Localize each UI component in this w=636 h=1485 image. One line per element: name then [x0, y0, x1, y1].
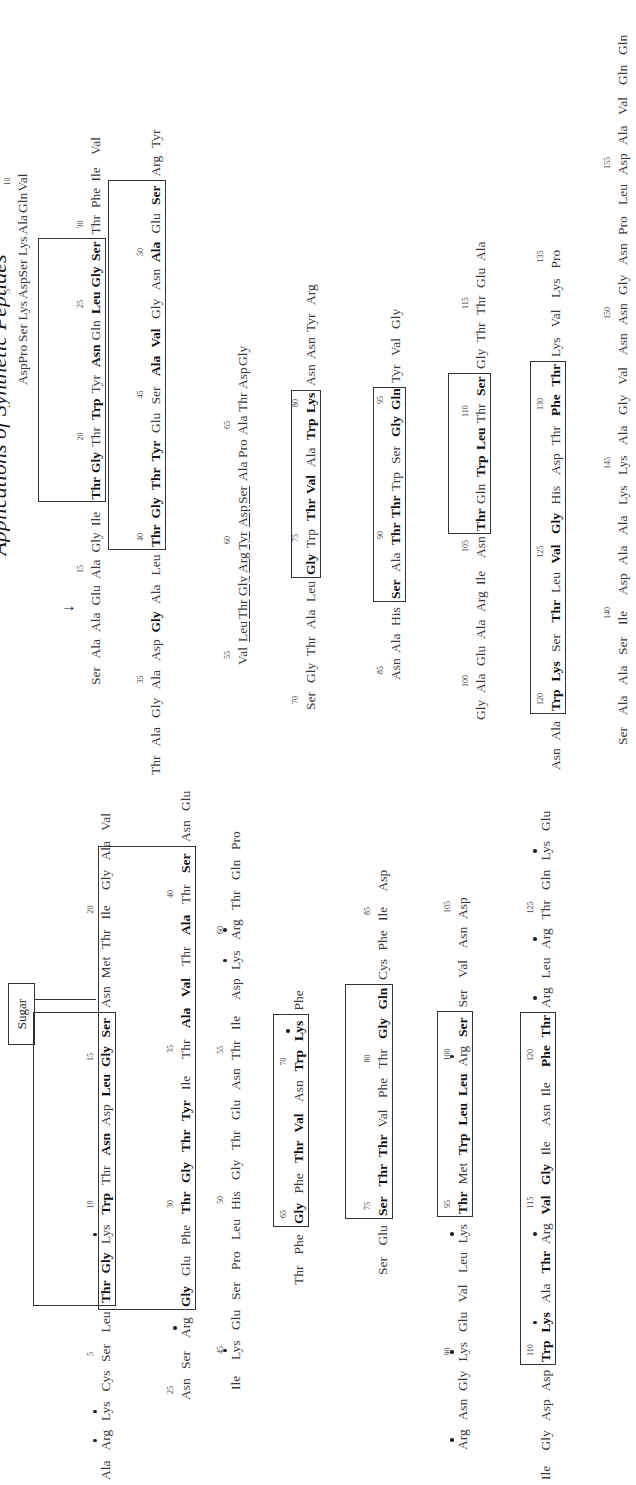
modification-dot-icon — [533, 849, 537, 853]
residue: Glu — [538, 811, 636, 831]
sugar-label: Sugar — [14, 999, 30, 1029]
residue: Ser — [615, 727, 636, 745]
residue: Ala — [615, 666, 636, 686]
residue: Glu — [148, 213, 636, 233]
modification-dot-icon — [93, 1410, 97, 1414]
sugar-link-line — [35, 999, 96, 1000]
residue: Gly — [615, 275, 636, 295]
rotated-page: Applications of Synthetic Peptides AspPr… — [0, 0, 636, 1485]
residue: Asn — [615, 243, 636, 265]
running-header: Applications of Synthetic Peptides — [0, 25, 10, 785]
residue: Gly — [615, 395, 636, 415]
residue: Leu — [615, 184, 636, 205]
residue-number: 140 — [603, 607, 619, 619]
residue: Arg — [538, 987, 636, 1008]
residue: Val — [615, 97, 636, 115]
residue-number: 115 — [461, 297, 619, 309]
residue-number: 155 — [603, 157, 619, 169]
modification-dot-icon — [533, 996, 537, 1000]
residue: Ala — [615, 516, 636, 536]
residue-number: 150 — [603, 307, 619, 319]
sugar-label-box: Sugar — [8, 983, 35, 1045]
residue: Asp — [615, 573, 636, 595]
residue: Tyr — [148, 129, 636, 148]
modification-dot-icon — [450, 1232, 454, 1236]
residue: Gly — [538, 1430, 636, 1450]
residue: Ala — [615, 546, 636, 566]
residue: Asp — [538, 1370, 636, 1392]
residue: Arg — [148, 156, 636, 177]
residue: Ala — [615, 696, 636, 716]
residue-number: 125 — [526, 902, 619, 914]
homology-box — [291, 390, 321, 578]
homology-box — [448, 373, 491, 534]
homology-box — [98, 846, 196, 1310]
residue: Gln — [615, 65, 636, 85]
modification-dot-icon — [93, 1439, 97, 1443]
residue: Ser — [615, 637, 636, 655]
homology-box — [373, 387, 406, 602]
residue: Val — [615, 367, 636, 385]
modification-dot-icon — [533, 937, 537, 941]
residue: Asn — [615, 333, 636, 355]
residue: Leu — [538, 958, 636, 979]
residue: Asn — [548, 748, 636, 770]
modification-dot-icon — [173, 1326, 177, 1330]
residue: Pro — [615, 216, 636, 235]
homology-box — [437, 1012, 473, 1218]
residue: Lys — [538, 841, 636, 861]
residue: Gln — [538, 870, 636, 890]
homology-box — [345, 984, 393, 1219]
cleavage-arrow-icon: ↓ — [59, 605, 77, 613]
residue: Gln — [615, 35, 636, 55]
homology-box — [38, 239, 106, 503]
residue: Ser — [148, 186, 636, 206]
residue: Ala — [615, 126, 636, 146]
homology-box — [108, 181, 166, 551]
residue: Arg — [538, 928, 636, 949]
residue-number: 145 — [603, 457, 619, 469]
homology-box — [273, 1015, 309, 1228]
residue-number: 135 — [536, 251, 619, 263]
residue: Ala — [615, 426, 636, 446]
residue: Asp — [538, 1399, 636, 1421]
residue: Ile — [538, 1466, 636, 1480]
modification-dot-icon — [223, 959, 227, 963]
modification-dot-icon — [450, 1438, 454, 1442]
homology-box — [530, 361, 566, 714]
homology-box — [520, 1012, 556, 1365]
residue: Glu — [178, 791, 636, 811]
residue: Lys — [615, 485, 636, 505]
